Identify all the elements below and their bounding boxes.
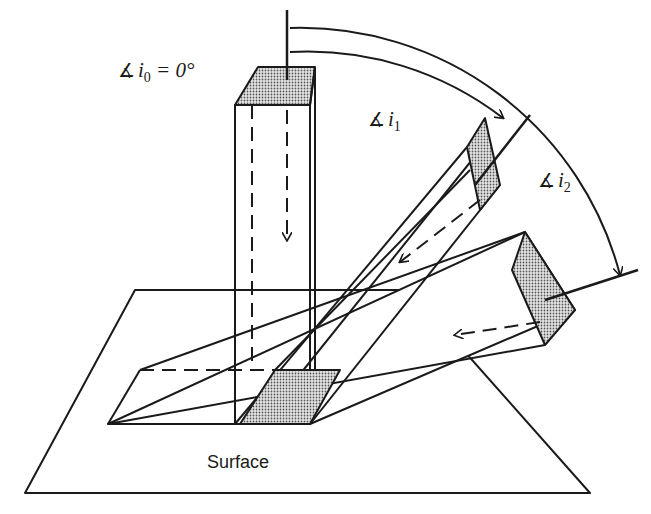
angle-1-label: ∡i1 <box>368 107 401 135</box>
arc-angle-2 <box>290 28 620 275</box>
light-incidence-diagram <box>0 0 651 514</box>
surface-label: Surface <box>207 452 269 473</box>
angle-2-label: ∡i2 <box>538 168 571 196</box>
beam-1-cross-section <box>467 118 500 210</box>
angle-0-label: ∡i0 = 0° <box>118 58 194 86</box>
